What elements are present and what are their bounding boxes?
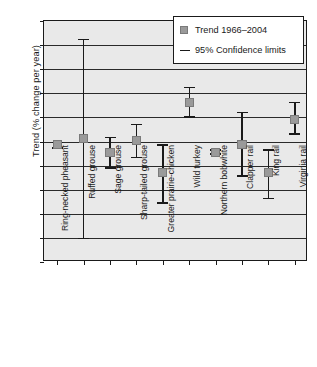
trend-marker: [132, 136, 141, 145]
x-axis-category-label: Wild turkey: [192, 145, 203, 265]
x-axis-category-label: Sharp-tailed grouse: [139, 145, 150, 265]
y-axis-tick-mark: [40, 69, 44, 70]
x-axis-tick-mark: [268, 260, 269, 265]
error-bar-cap-upper: [131, 124, 142, 126]
x-axis-category-label: Ruffed grouse: [87, 145, 98, 265]
x-axis-tick-mark: [84, 260, 85, 265]
x-axis-category-label: Virginia rail: [298, 145, 309, 265]
x-axis-tick-mark: [189, 260, 190, 265]
x-axis-tick-mark: [110, 260, 111, 265]
x-axis-category-label: King rail: [271, 145, 282, 265]
trend-marker: [290, 115, 299, 124]
y-axis-tick-mark: [40, 117, 44, 118]
x-axis-category-label: Northern bobwhite: [219, 145, 230, 265]
chart-legend: Trend 1966–2004 95% Confidence limits: [173, 16, 304, 64]
legend-label-trend: Trend 1966–2004: [195, 25, 267, 35]
x-axis-tick-mark: [242, 260, 243, 265]
x-axis-category-label: Ring-necked pheasant: [60, 145, 71, 265]
x-axis-tick-mark: [136, 260, 137, 265]
error-bar-cap-upper: [184, 87, 195, 89]
x-axis-category-label: Clapper rail: [245, 145, 256, 265]
x-axis-tick-mark: [216, 260, 217, 265]
legend-item-confidence: 95% Confidence limits: [180, 42, 297, 58]
x-axis-category-label: Sage grouse: [113, 145, 124, 265]
error-bar-cap-upper: [105, 137, 116, 139]
error-bar-cap-lower: [289, 133, 300, 135]
y-axis-tick-mark: [40, 166, 44, 167]
legend-label-confidence: 95% Confidence limits: [195, 45, 286, 55]
legend-square-marker-icon: [180, 26, 188, 34]
error-bar-cap-upper: [289, 102, 300, 104]
x-axis-category-label: Greater prairie-chicken: [166, 145, 177, 265]
trend-marker: [185, 98, 194, 107]
chart-figure: Trend (% change per year) 2520151050−5−1…: [0, 0, 317, 367]
y-axis-tick-mark: [40, 238, 44, 239]
error-bar-cap-upper: [237, 112, 248, 114]
y-axis-tick-mark: [40, 45, 44, 46]
legend-line-marker-icon: [180, 50, 190, 51]
y-axis-tick-mark: [40, 93, 44, 94]
trend-marker: [79, 134, 88, 143]
y-axis-tick-mark: [40, 214, 44, 215]
x-axis-tick-mark: [57, 260, 58, 265]
y-axis-tick-mark: [40, 190, 44, 191]
y-axis-tick-mark: [40, 262, 44, 263]
y-axis-tick-mark: [40, 142, 44, 143]
error-bar-cap-lower: [184, 116, 195, 118]
x-axis-tick-mark: [163, 260, 164, 265]
legend-item-trend: Trend 1966–2004: [180, 22, 297, 38]
error-bar-cap-upper: [78, 39, 89, 41]
y-axis-tick-mark: [40, 21, 44, 22]
x-axis-tick-mark: [295, 260, 296, 265]
